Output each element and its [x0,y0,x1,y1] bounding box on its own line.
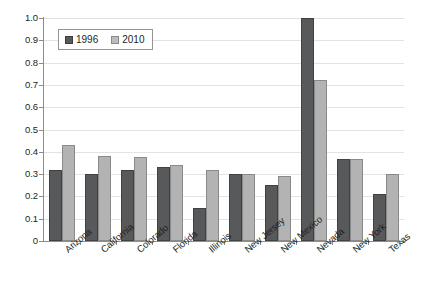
y-tick-mark [39,174,43,175]
bar-new-jersey-2010 [242,174,255,241]
y-tick-mark [39,18,43,19]
y-tick: 0.7 [0,80,38,90]
gridline [44,152,404,153]
y-tick-mark [39,85,43,86]
y-tick-mark [39,219,43,220]
chart-legend: 1996 2010 [58,29,153,50]
y-tick-label: 0.3 [4,169,38,179]
y-tick-mark [39,40,43,41]
legend-swatch-2010-icon [111,36,119,44]
y-tick: 0.4 [0,147,38,157]
y-tick-label: 0.9 [4,35,38,45]
y-tick-mark [39,63,43,64]
y-tick-mark [39,130,43,131]
y-tick: 0.6 [0,102,38,112]
y-tick-label: 0.4 [4,147,38,157]
y-tick-label: 0.7 [4,80,38,90]
y-tick: 0.2 [0,191,38,201]
y-tick-mark [39,241,43,242]
y-tick: 0.5 [0,125,38,135]
y-tick: 0.8 [0,58,38,68]
bar-texas-2010 [386,174,399,241]
y-tick-label: 0.6 [4,102,38,112]
y-tick: 0.3 [0,169,38,179]
gridline [44,18,404,19]
y-tick-label: 0.5 [4,125,38,135]
legend-item-1996: 1996 [65,34,98,45]
y-tick-label: 0.8 [4,58,38,68]
bar-arizona-2010 [62,145,75,241]
legend-label-2010: 2010 [122,34,144,45]
y-axis-line [43,17,44,242]
legend-item-2010: 2010 [111,34,144,45]
gridline [44,130,404,131]
y-tick-label: 0.1 [4,214,38,224]
bar-new-mexico-2010 [278,176,291,241]
bar-colorado-2010 [134,157,147,241]
bar-california-2010 [98,156,111,241]
bar-new-jersey-1996 [229,174,242,241]
bar-nevada-1996 [301,18,314,241]
y-tick: 0.1 [0,214,38,224]
bar-arizona-1996 [49,170,62,241]
gridline [44,63,404,64]
plot-area [44,18,404,241]
legend-swatch-1996-icon [65,36,73,44]
bar-florida-2010 [170,165,183,241]
legend-label-1996: 1996 [76,34,98,45]
y-tick-mark [39,196,43,197]
bar-chart: 00.10.20.30.40.50.60.70.80.91.0 ArizonaC… [0,0,432,303]
y-tick-label: 0.2 [4,191,38,201]
y-tick-label: 1.0 [4,13,38,23]
y-tick: 0 [0,236,38,246]
bar-illinois-2010 [206,170,219,241]
y-tick-label: 0 [4,236,38,246]
y-tick: 1.0 [0,13,38,23]
y-tick: 0.9 [0,35,38,45]
y-tick-mark [39,152,43,153]
gridline [44,85,404,86]
gridline [44,107,404,108]
bar-new-york-2010 [350,159,363,242]
y-tick-mark [39,107,43,108]
